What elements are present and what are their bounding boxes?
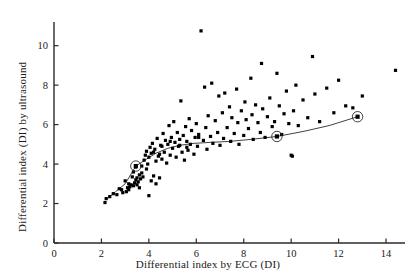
data-point: [214, 119, 217, 122]
data-point: [161, 132, 164, 135]
data-point: [167, 124, 170, 127]
data-point: [124, 179, 127, 182]
data-point: [144, 154, 147, 157]
data-point: [140, 171, 143, 174]
data-point: [222, 137, 225, 140]
y-tick-label: 4: [43, 159, 49, 170]
data-point: [160, 158, 163, 161]
data-point: [218, 144, 221, 147]
data-point: [160, 145, 163, 148]
data-point: [158, 176, 161, 179]
data-point: [207, 114, 210, 117]
data-point: [171, 147, 174, 150]
circled-node-marker: [275, 134, 279, 138]
data-point: [150, 179, 153, 182]
data-point: [141, 175, 144, 178]
data-point: [229, 140, 232, 143]
data-point: [121, 191, 124, 194]
data-point: [294, 84, 297, 87]
data-point: [156, 137, 159, 140]
data-point: [233, 132, 236, 135]
data-point: [235, 87, 238, 90]
data-point: [163, 151, 166, 154]
data-point: [145, 150, 148, 153]
data-point: [205, 148, 208, 151]
scatter-plot-svg: 024681012140246810: [0, 0, 416, 280]
data-point: [252, 138, 255, 141]
data-point: [195, 122, 198, 125]
data-point: [199, 29, 202, 32]
data-point: [247, 127, 250, 130]
data-point: [254, 103, 257, 106]
data-point: [132, 184, 135, 187]
data-point: [351, 106, 354, 109]
data-point: [151, 142, 154, 145]
data-point: [120, 188, 123, 191]
data-point: [228, 105, 231, 108]
data-point: [135, 176, 138, 179]
data-point: [175, 156, 178, 159]
data-point: [178, 144, 181, 147]
data-point: [147, 194, 150, 197]
data-point: [291, 155, 294, 158]
data-point: [189, 143, 192, 146]
data-point: [169, 154, 172, 157]
data-point: [169, 140, 172, 143]
tick-labels-group: 024681012140246810: [38, 40, 393, 259]
data-point: [292, 109, 295, 112]
data-point: [186, 149, 189, 152]
data-point: [282, 112, 285, 115]
y-tick-label: 6: [43, 119, 48, 130]
data-point: [176, 131, 179, 134]
axes-group: [54, 22, 405, 243]
data-point: [131, 175, 134, 178]
data-point: [242, 134, 245, 137]
data-point: [154, 160, 157, 163]
trend-line: [106, 117, 357, 200]
circled-node-marker: [134, 164, 138, 168]
data-point: [243, 100, 246, 103]
data-point: [273, 120, 276, 123]
data-point: [285, 89, 288, 92]
data-point: [250, 113, 253, 116]
x-axis-label: Differential index by ECG (DI): [0, 258, 416, 270]
data-point: [196, 145, 199, 148]
data-point: [197, 136, 200, 139]
data-point: [236, 121, 239, 124]
data-point: [278, 104, 281, 107]
data-point: [138, 186, 141, 189]
data-point: [275, 72, 278, 75]
data-point: [153, 148, 156, 151]
data-point: [210, 82, 213, 85]
data-point: [313, 92, 316, 95]
data-point: [178, 138, 181, 141]
data-point: [194, 136, 197, 139]
y-axis-label: Differential index (DI) by ultrasound: [16, 62, 28, 232]
data-point: [256, 121, 259, 124]
data-point: [268, 96, 271, 99]
figure-container: 024681012140246810 Differential index by…: [0, 0, 416, 280]
data-point: [197, 133, 200, 136]
data-point: [146, 162, 149, 165]
data-point: [179, 99, 182, 102]
data-point: [143, 159, 146, 162]
data-point: [332, 111, 335, 114]
data-point: [260, 62, 263, 65]
data-point: [287, 122, 290, 125]
data-point: [297, 124, 300, 127]
data-point: [337, 79, 340, 82]
data-point: [211, 142, 214, 145]
data-point: [180, 151, 183, 154]
data-point: [188, 117, 191, 120]
data-point: [182, 134, 185, 137]
data-point: [263, 136, 266, 139]
data-point: [271, 125, 274, 128]
data-point: [261, 107, 264, 110]
data-point: [249, 77, 252, 80]
data-point: [115, 193, 118, 196]
data-point: [164, 139, 167, 142]
data-point: [209, 135, 212, 138]
data-point: [230, 116, 233, 119]
data-point: [185, 140, 188, 143]
data-point: [158, 153, 161, 156]
